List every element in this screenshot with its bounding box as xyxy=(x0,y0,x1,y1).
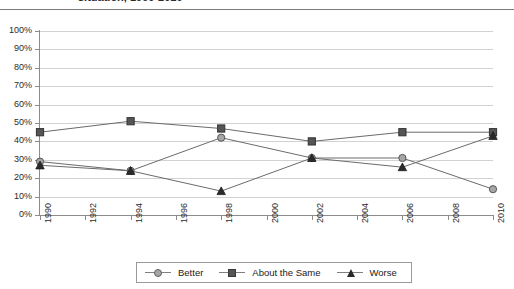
square-marker xyxy=(228,269,236,277)
series-about-the-same xyxy=(36,118,496,145)
square-marker xyxy=(127,118,134,125)
square-marker xyxy=(36,129,43,136)
square-icon xyxy=(219,267,245,278)
legend-item-better[interactable]: Better xyxy=(145,267,203,278)
circle-marker xyxy=(399,154,406,161)
square-marker xyxy=(308,138,315,145)
series-better xyxy=(36,134,496,193)
triangle-icon xyxy=(337,267,363,278)
circle-marker xyxy=(218,134,225,141)
square-marker xyxy=(218,125,225,132)
triangle-marker xyxy=(347,269,355,277)
circle-marker xyxy=(154,269,162,277)
circle-icon xyxy=(145,267,171,278)
legend-label: Better xyxy=(178,267,203,278)
square-marker xyxy=(399,129,406,136)
chart-container: situation, 1990-2010 0%10%20%30%40%50%60… xyxy=(0,0,514,289)
series-layer xyxy=(0,0,514,289)
legend-label: About the Same xyxy=(252,267,320,278)
series-line xyxy=(40,121,493,141)
series-worse xyxy=(36,132,497,195)
legend-item-about-the-same[interactable]: About the Same xyxy=(219,267,320,278)
chart-legend: BetterAbout the SameWorse xyxy=(136,262,412,283)
series-line xyxy=(40,136,493,191)
circle-marker xyxy=(489,186,496,193)
series-line xyxy=(40,138,493,190)
legend-label: Worse xyxy=(370,267,397,278)
legend-item-worse[interactable]: Worse xyxy=(337,267,397,278)
